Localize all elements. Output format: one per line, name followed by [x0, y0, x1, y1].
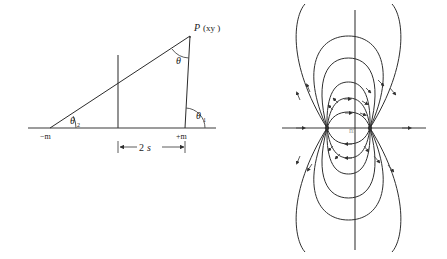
field-loop-d6-left [296, 128, 327, 252]
arrow-ur-2 [362, 101, 367, 104]
positive-pole-label: +m [176, 132, 188, 141]
theta1-subscript: 1 [203, 117, 206, 123]
arrow-ur-4 [378, 80, 383, 85]
theta2-label: θ [70, 115, 75, 126]
field-loop-u4 [322, 58, 375, 128]
arrow-ll-2 [308, 164, 312, 170]
right-panel-group: m [282, 4, 426, 252]
theta1-label: θ [196, 110, 201, 121]
arrow-ul-1 [297, 93, 300, 100]
point-p-coords-label: (xy ) [203, 23, 220, 33]
field-loop-d4 [322, 128, 375, 198]
left-panel-group: P (xy ) θ θ 1 θ 2 −m +m 2 s [28, 22, 220, 153]
arrow-ll-1 [297, 156, 300, 163]
field-loop-u6-right [370, 4, 401, 128]
arrow-ur-5 [390, 88, 395, 94]
arrow-ul-4 [334, 99, 338, 103]
lower-field-loops [296, 128, 401, 252]
field-loop-u3 [327, 82, 370, 128]
dimension-2s-group: 2 s [118, 141, 185, 153]
field-loop-u6-left [296, 4, 327, 128]
dimension-2s-number: 2 [139, 142, 144, 153]
dimension-2s-symbol: s [147, 142, 151, 153]
figure-container: P (xy ) θ θ 1 θ 2 −m +m 2 s m [0, 0, 447, 259]
upper-field-loops [296, 4, 401, 128]
negative-pole-label: −m [40, 132, 52, 141]
center-faint-label: m [349, 126, 356, 135]
field-loop-d6-right [370, 128, 401, 252]
theta-label: θ [176, 55, 181, 66]
arrow-ur-3 [366, 88, 370, 92]
arrow-lr-3 [388, 165, 393, 171]
arrow-lr-1 [364, 146, 368, 151]
right-leg-line [185, 36, 190, 128]
theta2-subscript: 2 [77, 122, 80, 128]
point-p-label: P [193, 22, 200, 33]
